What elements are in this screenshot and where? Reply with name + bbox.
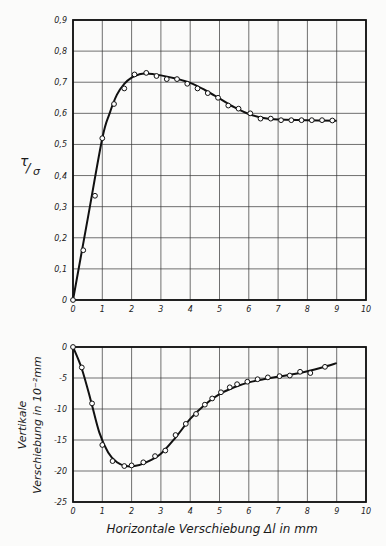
data-point-marker — [210, 396, 215, 401]
y-tick-labels: 00,10,20,30,40,50,60,70,80,9 — [54, 16, 68, 305]
data-point-marker — [308, 371, 313, 376]
data-point-marker — [79, 365, 84, 370]
data-point-marker — [164, 77, 169, 82]
y-tick-label: 0 — [62, 343, 67, 352]
data-point-marker — [298, 369, 303, 374]
top-y-axis-label: τ / σ — [20, 153, 41, 178]
bottom-ylabel-line2: Verschiebung in 10⁻²mm — [31, 356, 44, 493]
x-tick-label: 1 — [100, 507, 105, 516]
y-tick-label: -5 — [59, 374, 67, 383]
y-tick-label: -25 — [54, 498, 67, 507]
x-tick-label: 4 — [188, 305, 193, 314]
x-tick-label: 8 — [305, 305, 310, 314]
data-point-marker — [279, 118, 284, 123]
y-tick-label: -10 — [54, 405, 67, 414]
data-point-marker — [226, 103, 231, 108]
y-tick-label: 0,6 — [54, 109, 67, 118]
fitted-curve — [73, 73, 337, 300]
data-point-marker — [287, 373, 292, 378]
data-point-marker — [205, 91, 210, 96]
x-tick-label: 8 — [305, 507, 310, 516]
data-point-marker — [100, 136, 105, 141]
data-point-marker — [122, 464, 127, 469]
data-point-marker — [93, 193, 98, 198]
data-point-marker — [154, 74, 159, 79]
fraction-slash: / — [25, 160, 32, 175]
data-point-marker — [122, 86, 127, 91]
data-point-marker — [71, 345, 76, 350]
x-tick-label: 6 — [246, 507, 251, 516]
data-point-marker — [112, 102, 117, 107]
y-tick-label: -20 — [54, 467, 67, 476]
x-tick-label: 10 — [361, 507, 371, 516]
data-point-marker — [258, 116, 263, 121]
x-tick-label: 6 — [246, 305, 251, 314]
bottom-y-axis-label: Vertikale Verschiebung in 10⁻²mm — [16, 356, 44, 493]
y-tick-label: 0,3 — [54, 203, 67, 212]
y-tick-label: -15 — [54, 436, 67, 445]
grid — [73, 20, 366, 300]
x-tick-label: 7 — [276, 305, 282, 314]
y-tick-label: 0,2 — [54, 234, 67, 243]
data-point-marker — [153, 454, 158, 459]
figure: 01234567891000,10,20,30,40,50,60,70,80,9… — [0, 0, 386, 546]
data-point-marker — [248, 111, 253, 116]
y-tick-label: 0 — [62, 296, 67, 305]
x-tick-label: 3 — [158, 507, 163, 516]
bottom-ylabel-line1: Vertikale — [16, 401, 29, 450]
x-tick-label: 5 — [217, 305, 222, 314]
x-tick-label: 5 — [217, 507, 222, 516]
data-point-marker — [320, 118, 325, 123]
data-point-marker — [216, 95, 221, 100]
x-tick-label: 2 — [129, 305, 134, 314]
data-point-marker — [323, 364, 328, 369]
x-tick-label: 0 — [70, 507, 75, 516]
y-tick-label: 0,7 — [54, 78, 68, 87]
data-point-marker — [219, 390, 224, 395]
data-point-marker — [100, 443, 105, 448]
top-chart-shear-ratio: 01234567891000,10,20,30,40,50,60,70,80,9 — [54, 16, 371, 314]
data-point-marker — [144, 70, 149, 75]
data-point-marker — [289, 118, 294, 123]
x-tick-label: 9 — [334, 507, 339, 516]
x-tick-label: 0 — [70, 305, 75, 314]
y-tick-labels: 0-5-10-15-20-25 — [54, 343, 67, 507]
data-point-marker — [245, 379, 250, 384]
y-tick-label: 0,8 — [54, 47, 67, 56]
data-point-marker — [202, 402, 207, 407]
data-point-marker — [175, 77, 180, 82]
x-tick-labels: 012345678910 — [70, 305, 371, 314]
y-tick-label: 0,1 — [54, 265, 67, 274]
x-tick-label: 10 — [361, 305, 371, 314]
data-point-marker — [236, 106, 241, 111]
data-point-marker — [163, 448, 168, 453]
sigma-symbol: σ — [33, 165, 41, 178]
x-tick-label: 4 — [188, 507, 193, 516]
data-point-marker — [81, 248, 86, 253]
data-point-marker — [90, 401, 95, 406]
data-point-marker — [183, 421, 188, 426]
x-tick-label: 2 — [129, 507, 134, 516]
data-point-marker — [299, 118, 304, 123]
data-point-marker — [195, 86, 200, 91]
x-tick-label: 3 — [158, 305, 163, 314]
data-point-marker — [71, 298, 76, 303]
x-tick-label: 1 — [100, 305, 105, 314]
data-point-marker — [265, 375, 270, 380]
data-point-marker — [268, 116, 273, 121]
data-point-marker — [185, 81, 190, 86]
data-point-marker — [309, 118, 314, 123]
data-point-marker — [194, 412, 199, 417]
x-axis-label: Horizontale Verschiebung Δl in mm — [106, 522, 317, 536]
x-tick-label: 7 — [276, 507, 282, 516]
y-tick-label: 0,4 — [54, 172, 67, 181]
y-tick-label: 0,9 — [54, 16, 67, 25]
data-point-marker — [277, 374, 282, 379]
grid — [73, 347, 366, 502]
data-point-marker — [330, 118, 335, 123]
data-point-marker — [129, 463, 134, 468]
x-tick-label: 9 — [334, 305, 339, 314]
data-point-marker — [110, 459, 115, 464]
data-markers — [71, 345, 328, 469]
data-point-marker — [235, 382, 240, 387]
